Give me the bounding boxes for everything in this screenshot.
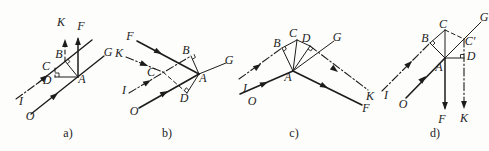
point-label: B [182, 43, 190, 57]
point-label: C′ [465, 34, 476, 48]
point-label: D [179, 91, 189, 105]
figure-b-caption: b) [162, 126, 172, 140]
point-label: G [225, 53, 234, 67]
arrowhead-icon [154, 48, 162, 54]
point-label: B [273, 36, 281, 50]
arrowhead-icon [143, 80, 151, 87]
point-label: F [76, 19, 85, 33]
point-label: C [439, 17, 448, 31]
point-label: K [365, 89, 375, 103]
point-label: K [56, 15, 66, 29]
right-angle-mark [55, 73, 59, 77]
right-angle-mark [192, 54, 195, 59]
arrowhead-icon [260, 82, 268, 88]
point-label: O [26, 109, 35, 123]
point-label: A [198, 71, 207, 85]
arrowhead-icon [320, 82, 328, 88]
point-label: G [480, 10, 489, 24]
point-label: O [248, 94, 257, 108]
figure-a-caption: a) [63, 126, 72, 140]
point-label: G [333, 30, 342, 44]
point-label: F [437, 112, 446, 126]
arrowhead-icon [461, 101, 467, 109]
diagram-line [282, 40, 297, 48]
point-label: D [466, 49, 476, 63]
diagram-line [445, 30, 464, 39]
point-label: A [434, 60, 443, 74]
point-label: O [399, 97, 408, 111]
point-label: D [301, 31, 311, 45]
diagram-line [293, 71, 362, 105]
figure-d: GCBC′DAIOFKd) [382, 10, 489, 140]
arrowhead-icon [75, 37, 81, 45]
diagram-line [282, 48, 293, 71]
diagram-line [430, 30, 445, 43]
point-label: A [77, 72, 86, 86]
point-label: C [147, 65, 156, 79]
right-angle-mark [433, 41, 436, 46]
point-label: K [114, 46, 124, 60]
figure-b: FKCIOBADGb) [114, 29, 234, 140]
point-label: O [130, 104, 139, 118]
figure-c: BCDGAIOFKc) [239, 26, 375, 140]
force-decomposition-diagram: KFGBCDAIOa)FKCIOBADGb)BCDGAIOFKc)GCBC′DA… [0, 0, 489, 151]
diagram-line [65, 61, 78, 77]
point-label: B [421, 31, 429, 45]
figure-d-caption: d) [430, 126, 440, 140]
arrowhead-icon [253, 64, 261, 71]
diagram-line [139, 74, 199, 108]
diagram-line [382, 43, 430, 91]
point-label: B [55, 47, 63, 61]
point-label: K [459, 111, 469, 125]
figure-c-caption: c) [289, 126, 298, 140]
diagram-line [129, 56, 191, 93]
point-label: I [121, 83, 127, 97]
point-label: I [242, 81, 248, 95]
diagram-line [239, 48, 282, 79]
arrowhead-icon [418, 76, 426, 84]
scanned-textbook-page: KFGBCDAIOa)FKCIOBADGb)BCDGAIOFKc)GCBC′DA… [0, 0, 489, 151]
arrowhead-icon [50, 93, 58, 100]
point-label: F [125, 29, 134, 43]
point-label: A [283, 70, 292, 84]
arrowhead-icon [442, 102, 448, 110]
figure-a: KFGBCDAIOa) [16, 15, 113, 140]
point-label: G [104, 45, 113, 59]
diagram-line [293, 41, 334, 71]
point-label: C [289, 26, 298, 40]
point-label: F [361, 101, 370, 115]
diagram-line [445, 22, 481, 58]
arrowhead-icon [62, 39, 68, 47]
point-label: D [42, 73, 52, 87]
point-label: I [18, 94, 24, 108]
point-label: I [383, 88, 389, 102]
point-label: C [42, 59, 51, 73]
